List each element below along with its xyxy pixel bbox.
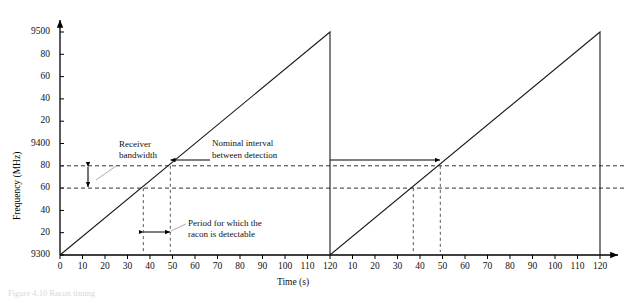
x-tick-label: 10 [342, 261, 364, 271]
x-tick-label: 120 [589, 261, 611, 271]
racon-timing-chart [0, 0, 625, 303]
x-tick-label: 20 [364, 261, 386, 271]
x-tick-label: 50 [432, 261, 454, 271]
y-tick-label: 9400 [16, 138, 50, 148]
x-tick-label: 90 [252, 261, 274, 271]
x-tick-label: 30 [117, 261, 139, 271]
nominal-interval-label-line2: between detection [212, 150, 277, 161]
x-tick-label: 120 [319, 261, 341, 271]
x-tick-label: 0 [49, 261, 71, 271]
x-tick-label: 100 [274, 261, 296, 271]
figure-caption: Figure 4.10 Racon timing [8, 288, 95, 298]
y-tick-label: 80 [16, 49, 50, 59]
x-tick-label: 60 [454, 261, 476, 271]
nominal-interval-label-line1: Nominal interval [212, 138, 273, 149]
x-tick-label: 40 [409, 261, 431, 271]
receiver-bandwidth-label-line1: Receiver [119, 139, 151, 150]
x-tick-label: 90 [522, 261, 544, 271]
racon-detectable-label-line1: Period for which the [188, 218, 262, 229]
x-axis-title: Time (s) [277, 277, 309, 287]
x-tick-label: 50 [162, 261, 184, 271]
x-tick-label: 40 [139, 261, 161, 271]
x-tick-label: 30 [387, 261, 409, 271]
y-tick-label: 9300 [16, 249, 50, 259]
y-tick-label: 60 [16, 71, 50, 81]
x-tick-label: 80 [499, 261, 521, 271]
x-tick-label: 110 [297, 261, 319, 271]
x-tick-label: 100 [544, 261, 566, 271]
x-tick-label: 70 [477, 261, 499, 271]
figure-root: 9500 80 60 40 20 9400 80 60 40 20 9300 0… [0, 0, 625, 303]
y-tick-label: 9500 [16, 26, 50, 36]
x-tick-label: 70 [207, 261, 229, 271]
x-tick-label: 110 [567, 261, 589, 271]
y-tick-label: 40 [16, 93, 50, 103]
y-tick-label: 20 [16, 115, 50, 125]
racon-detectable-label-line2: racon is detectable [188, 229, 255, 240]
x-tick-label: 60 [184, 261, 206, 271]
x-tick-label: 20 [94, 261, 116, 271]
x-tick-label: 10 [72, 261, 94, 271]
receiver-bandwidth-leader [96, 166, 116, 180]
y-axis-title: Frequency (MHz) [12, 152, 22, 220]
x-tick-label: 80 [229, 261, 251, 271]
y-tick-label: 20 [16, 227, 50, 237]
racon-detectable-leader [171, 224, 186, 231]
receiver-bandwidth-label-line2: bandwidth [119, 150, 157, 161]
